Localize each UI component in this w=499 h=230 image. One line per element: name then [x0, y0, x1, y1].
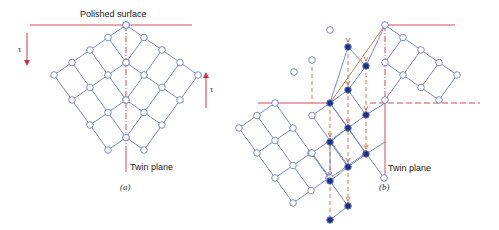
atom: [290, 200, 297, 207]
lattice-bond: [108, 75, 126, 100]
lattice-bond: [126, 38, 144, 63]
atom: [123, 97, 130, 104]
atom: [177, 97, 184, 104]
lattice-bond: [421, 63, 439, 88]
lattice-bond: [239, 128, 257, 153]
lattice-bond: [312, 116, 330, 141]
arrow-head-down-icon: [24, 60, 30, 66]
atom: [87, 47, 94, 54]
atom: [272, 137, 279, 144]
atom: [69, 97, 76, 104]
atom: [87, 122, 94, 129]
atom: [87, 84, 94, 91]
lattice-bond: [348, 128, 366, 154]
atom: [400, 34, 407, 41]
atom: [436, 59, 443, 66]
atom-displaced: [363, 63, 370, 70]
atom: [290, 125, 297, 132]
lattice-bond: [330, 47, 348, 103]
lattice-bond: [162, 63, 180, 88]
lattice-bond: [72, 100, 90, 125]
lattice-bond: [144, 50, 162, 75]
atom-displaced: [327, 217, 334, 224]
displacement-arrow-icon: [346, 38, 350, 42]
lattice-bond: [312, 153, 330, 178]
lattice-bond: [403, 50, 421, 75]
atom: [454, 72, 461, 79]
atom: [51, 72, 58, 79]
atom: [308, 187, 315, 194]
caption-b: (b): [379, 182, 390, 192]
atom-displaced: [363, 112, 370, 119]
atom: [141, 72, 148, 79]
atom: [254, 112, 261, 119]
lattice-bond: [330, 103, 348, 128]
lattice-bond: [330, 181, 348, 206]
twin-plane-label-b: Twin plane: [388, 163, 431, 173]
lattice-bond: [126, 75, 144, 100]
displacement-arrow-icon: [364, 57, 368, 61]
atom: [195, 72, 202, 79]
atom: [272, 100, 279, 107]
atom: [382, 22, 389, 29]
atom: [309, 150, 316, 157]
lattice-bond: [293, 166, 311, 191]
lattice-bond: [90, 125, 108, 150]
lattice-bond: [108, 113, 126, 138]
lattice-bond: [180, 75, 198, 100]
lattice-bond: [439, 75, 457, 100]
atom: [382, 59, 389, 66]
lattice-bond: [257, 116, 275, 141]
lattice-bond: [366, 153, 384, 178]
atom-displaced: [345, 203, 352, 210]
lattice-bond: [330, 142, 348, 167]
atom-displaced: [345, 164, 352, 171]
lattice-bond: [275, 103, 293, 128]
atom: [418, 84, 425, 91]
lattice-bond: [275, 178, 293, 203]
atom: [159, 122, 166, 129]
lattice-bond: [90, 50, 108, 75]
lattice-bond: [72, 63, 90, 88]
lattice-bond: [348, 90, 366, 115]
atom: [381, 175, 388, 182]
lattice-bond: [144, 88, 162, 113]
atom: [159, 84, 166, 91]
lattice-bond: [293, 128, 311, 153]
lattice-bond: [311, 153, 329, 178]
lattice-bond: [385, 75, 403, 100]
lattice-bond: [144, 125, 162, 150]
atom: [105, 72, 112, 79]
atom: [291, 69, 298, 76]
caption-a: (a): [120, 182, 131, 192]
atom: [382, 97, 389, 104]
lattice-bond: [90, 88, 108, 113]
atom: [105, 109, 112, 116]
atom: [309, 112, 316, 119]
arrow-head-up-icon: [203, 72, 209, 78]
atom: [327, 27, 334, 34]
atom: [236, 125, 243, 132]
atom: [418, 47, 425, 54]
shear-stress-label-left: τ: [18, 45, 21, 54]
atom: [69, 59, 76, 66]
atom-displaced: [345, 87, 352, 94]
atom: [123, 134, 130, 141]
atom-displaced: [327, 139, 334, 146]
lattice-bond: [348, 66, 366, 90]
atom: [159, 47, 166, 54]
atom: [123, 22, 130, 29]
lattice-bond: [275, 141, 293, 166]
atom-displaced: [345, 44, 352, 51]
atom-displaced: [327, 100, 334, 107]
polished-surface-label: Polished surface: [80, 9, 147, 19]
twinning-diagram: [0, 0, 499, 230]
atom: [105, 147, 112, 154]
lattice-bond: [366, 25, 385, 66]
atom-displaced: [363, 151, 370, 158]
lattice-bond: [54, 75, 72, 100]
lattice-bond: [162, 100, 180, 125]
lattice-bond: [126, 113, 144, 138]
atom: [141, 147, 148, 154]
atom: [272, 175, 279, 182]
